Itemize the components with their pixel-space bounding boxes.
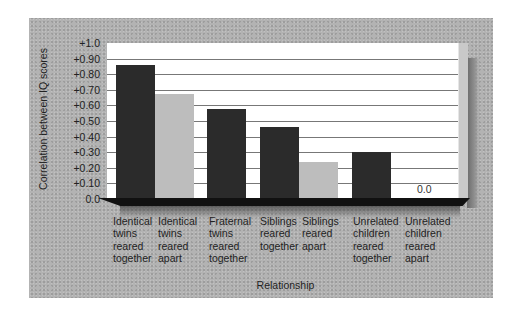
y-tick-label: +1.0 <box>60 37 100 49</box>
y-tick-label: +0.90 <box>60 53 100 65</box>
zero-value-label: 0.0 <box>417 183 432 195</box>
bar <box>116 65 155 199</box>
plot-shadow <box>467 58 479 208</box>
x-category-label: Unrelatedchildrenrearedtogether <box>353 215 403 265</box>
y-tick-label: +0.60 <box>60 99 100 111</box>
x-category-label: Identicaltwinsrearedtogether <box>113 215 163 265</box>
x-axis-title: Relationship <box>257 279 315 291</box>
bar <box>207 109 246 199</box>
y-axis-title: Correlation between IQ scores <box>37 48 49 190</box>
y-axis-label: Correlation between IQ scores <box>33 44 53 194</box>
y-tick-label: +0.70 <box>60 84 100 96</box>
x-category-label: Fraternaltwinsrearedtogether <box>209 215 259 265</box>
x-category-label: Unrelatedchildrenrearedapart <box>405 215 455 265</box>
y-tick-label: +0.30 <box>60 146 100 158</box>
y-tick-label: +0.40 <box>60 131 100 143</box>
y-tick-label: +0.20 <box>60 162 100 174</box>
bar <box>299 162 338 199</box>
y-tick-label: 0.0 <box>60 193 100 205</box>
gridline <box>107 59 458 60</box>
y-tick-label: +0.10 <box>60 177 100 189</box>
bar <box>155 94 194 199</box>
y-tick-label: +0.50 <box>60 115 100 127</box>
plot-area: 0.0 <box>107 43 458 199</box>
x-category-label: Siblingsrearedapart <box>302 215 352 252</box>
chart-floor <box>98 198 470 206</box>
plot-side-wall <box>458 43 468 200</box>
y-tick-label: +0.80 <box>60 68 100 80</box>
bar <box>260 127 299 199</box>
x-category-label: Identicaltwinsrearedapart <box>158 215 208 265</box>
bar <box>352 152 391 199</box>
gridline <box>107 90 458 91</box>
gridline <box>107 74 458 75</box>
x-axis-label: Relationship <box>0 279 519 291</box>
